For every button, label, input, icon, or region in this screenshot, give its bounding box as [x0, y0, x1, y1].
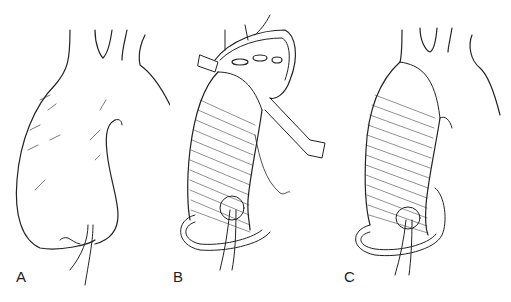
- panel-c: C: [340, 0, 511, 302]
- panel-label-b: B: [173, 268, 183, 285]
- completed-repair-illustration: [340, 0, 511, 302]
- graft-anastomosis-illustration: [170, 0, 340, 302]
- panel-label-a: A: [16, 268, 26, 285]
- panel-a: A: [0, 0, 170, 302]
- panel-b: B: [170, 0, 340, 302]
- panel-label-c: C: [344, 268, 355, 285]
- aneurysm-illustration: [0, 0, 170, 302]
